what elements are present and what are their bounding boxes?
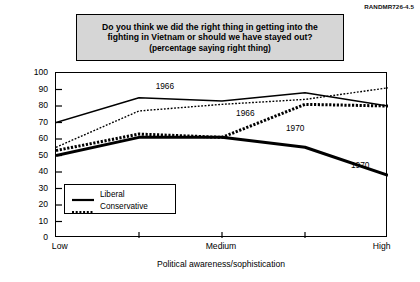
legend-swatch-solid-icon <box>72 190 94 198</box>
legend-label: Conservative <box>100 202 148 211</box>
y-tick-label: 50 <box>38 150 48 160</box>
y-tick-label: 70 <box>38 117 48 127</box>
chart-title-line-1: Do you think we did the right thing in g… <box>102 22 318 32</box>
chart-title-box: Do you think we did the right thing in g… <box>76 14 344 61</box>
chart-title-line-2: fighting in Vietnam or should we have st… <box>107 32 312 42</box>
series-line-1966-liberal <box>56 93 388 123</box>
x-tick-label: Medium <box>206 241 237 251</box>
legend-item-conservative[interactable]: Conservative <box>72 200 175 212</box>
annotation-1970-liberal: 1970 <box>351 160 369 170</box>
y-tick-label: 100 <box>34 67 48 77</box>
legend-label: Liberal <box>100 190 125 199</box>
figure-container: RANDMR726-4.5 Do you think we did the ri… <box>0 0 420 282</box>
series-line-1970-liberal <box>56 137 388 175</box>
x-tick-label: High <box>373 241 391 251</box>
y-tick-label: 10 <box>38 216 48 226</box>
y-tick-label: 20 <box>38 199 48 209</box>
y-tick-label: 30 <box>38 183 48 193</box>
y-axis-tick-labels: 0102030405060708090100 <box>0 72 55 237</box>
legend-item-liberal[interactable]: Liberal <box>72 188 175 200</box>
y-tick-label: 40 <box>38 166 48 176</box>
y-tick-label: 80 <box>38 100 48 110</box>
annotation-1966-liberal: 1966 <box>156 81 174 91</box>
x-axis-title: Political awareness/sophistication <box>157 259 285 269</box>
y-tick-label: 60 <box>38 133 48 143</box>
chart-title-line-3: (percentage saying right thing) <box>149 43 271 53</box>
annotation-1966-conservative: 1966 <box>236 108 254 118</box>
chart-legend: LiberalConservative <box>64 184 176 214</box>
annotation-1970-conservative: 1970 <box>286 123 304 133</box>
x-tick-label: Low <box>52 241 68 251</box>
y-tick-label: 0 <box>43 232 48 242</box>
legend-swatch-dotted-icon <box>72 202 94 210</box>
y-tick-label: 90 <box>38 84 48 94</box>
figure-id-label: RANDMR726-4.5 <box>364 3 414 10</box>
